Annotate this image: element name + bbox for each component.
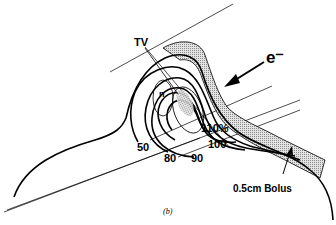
field-edge-lines xyxy=(4,4,300,212)
electron-beam-arrow xyxy=(224,62,264,87)
label-bolus: 0.5cm Bolus xyxy=(233,183,292,194)
label-isodose-80: 80 xyxy=(164,152,176,164)
label-isodose-110: 110% xyxy=(201,122,229,134)
label-isodose-50: 50 xyxy=(137,141,149,153)
label-isodose-90: 90 xyxy=(191,152,203,164)
skin-contour xyxy=(14,55,333,220)
label-tv: TV xyxy=(134,36,149,48)
dose-distribution-diagram: TV e⁻ n 110% 100 90 80 50 0.5cm Bolus (b… xyxy=(0,0,336,225)
label-isodose-100: 100 xyxy=(208,138,226,150)
label-electron: e⁻ xyxy=(266,48,284,67)
label-nose-marker: n xyxy=(159,89,165,99)
figure-caption: (b) xyxy=(163,207,173,216)
